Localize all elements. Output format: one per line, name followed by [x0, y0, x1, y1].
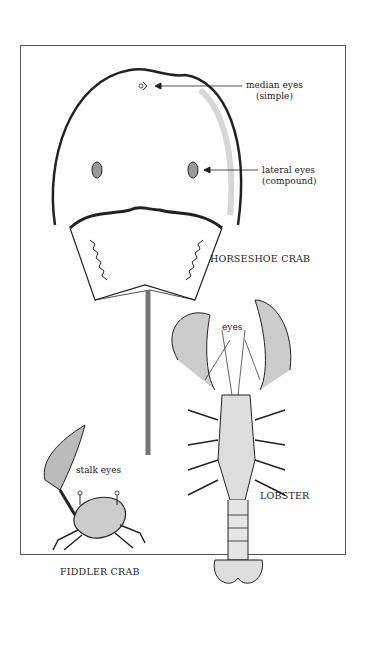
label-median-eyes: median eyes (simple)	[246, 80, 303, 102]
specimen-illustrations	[0, 0, 368, 653]
label-lobster-eyes: eyes	[222, 322, 242, 333]
label-lateral-eyes: lateral eyes (compound)	[262, 165, 317, 187]
caption-fiddler-crab: FIDDLER CRAB	[60, 566, 140, 577]
label-subtext: (simple)	[246, 91, 303, 102]
caption-lobster: LOBSTER	[260, 490, 309, 501]
label-text: lateral eyes	[262, 165, 317, 176]
fiddler-crab-drawing	[44, 425, 145, 550]
caption-horseshoe-crab: HORSESHOE CRAB	[210, 253, 310, 264]
label-subtext: (compound)	[262, 176, 317, 187]
label-stalk-eyes: stalk eyes	[76, 465, 121, 476]
lobster-drawing	[172, 300, 291, 583]
label-text: median eyes	[246, 80, 303, 91]
